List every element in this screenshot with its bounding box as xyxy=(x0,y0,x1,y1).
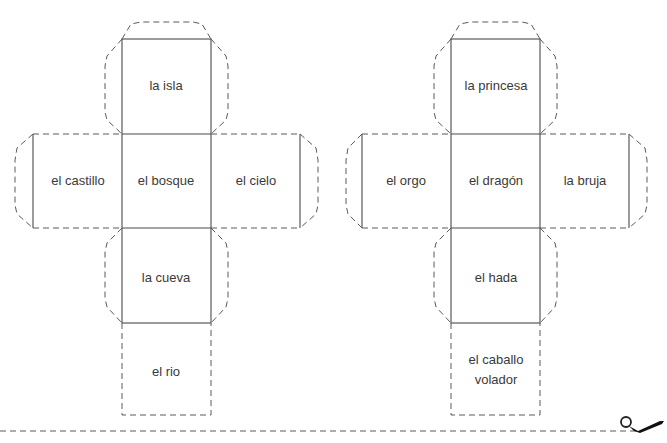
face-label: el cielo xyxy=(236,173,276,188)
scissors-icon xyxy=(621,417,664,433)
face-label: la isla xyxy=(149,78,183,93)
net2-tab-top xyxy=(451,22,540,39)
net1-tab-left xyxy=(15,134,33,228)
net2-extra-face xyxy=(451,323,540,415)
face-label: el castillo xyxy=(51,173,104,188)
face-label: la bruja xyxy=(564,173,607,188)
face-label: la princesa xyxy=(465,78,529,93)
face-label: la cueva xyxy=(142,270,191,285)
face-label: el dragón xyxy=(469,173,523,188)
net2-tab-left xyxy=(346,134,362,228)
face-label: el rio xyxy=(152,364,180,379)
net1-tab-top xyxy=(122,22,211,39)
face-label: volador xyxy=(475,372,518,387)
worksheet-canvas: la isla el castillo el bosque el cielo l… xyxy=(0,0,667,443)
net2-tab-right xyxy=(629,134,647,228)
cube-net-1: la isla el castillo el bosque el cielo l… xyxy=(15,22,318,415)
face-label: el caballo xyxy=(469,352,524,367)
face-label: el hada xyxy=(475,270,518,285)
cube-net-2: la princesa el orgo el dragón la bruja e… xyxy=(346,22,647,415)
face-label: el bosque xyxy=(138,173,194,188)
net1-tab-right xyxy=(300,134,318,228)
face-label: el orgo xyxy=(386,173,426,188)
